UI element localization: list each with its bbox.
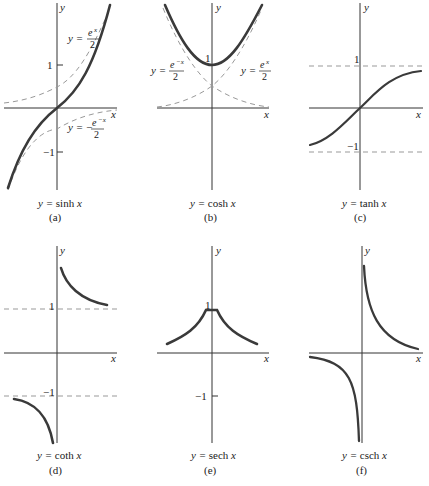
annot-exp-prefix: y =: [240, 64, 256, 76]
annot-exp-neg-num: e: [170, 59, 175, 70]
annot-exp-num: e: [260, 59, 265, 70]
label-f: (f): [356, 464, 367, 477]
annot-exp-sup: x: [265, 58, 270, 66]
panel-f-csch: y x y = csch x (f): [309, 244, 423, 477]
annot-exp-den: 2: [262, 71, 267, 82]
caption-f: y = csch x: [341, 449, 387, 461]
x-axis-label: x: [110, 108, 116, 120]
label-c: (c): [354, 211, 367, 224]
curve-coth-negative: [14, 399, 53, 443]
y-axis-label: y: [59, 244, 65, 256]
curve-csch-negative: [310, 357, 359, 441]
annot-neg-exp-den: 2: [94, 129, 99, 140]
curve-coth-positive: [61, 268, 107, 305]
x-axis-label: x: [263, 108, 269, 120]
annot-exp-neg-prefix: y =: [150, 64, 166, 76]
panel-d-coth: y x 1 −1 y = coth x (d): [4, 244, 117, 477]
label-a: (a): [49, 211, 62, 224]
annot-exp-half-sup: x: [93, 26, 98, 34]
tick-label-1: 1: [47, 59, 53, 71]
label-e: (e): [204, 464, 217, 477]
label-b: (b): [204, 211, 217, 224]
annot-neg-exp-sup: −x: [98, 116, 107, 124]
tick-label-neg1: −1: [347, 140, 359, 152]
tick-label-neg1: −1: [43, 386, 55, 398]
annot-neg-exp-prefix: y = −: [67, 121, 93, 133]
panel-e-sech: y x 1 −1 y = sech x (e): [157, 244, 269, 477]
hyperbolic-functions-figure: y x 1 −1 y = e x 2 y = − e −x 2 y = sinh…: [0, 0, 429, 486]
tick-label-neg1: −1: [43, 146, 55, 158]
tick-label-1: 1: [205, 52, 211, 64]
x-axis-label: x: [415, 352, 421, 364]
x-axis-label: x: [415, 108, 421, 120]
tick-label-1: 1: [49, 300, 55, 312]
curve-cosh: [165, 5, 262, 65]
tick-label-neg1: −1: [195, 390, 207, 402]
panel-c-tanh: y x 1 −1 y = tanh x (c): [309, 1, 423, 224]
caption-b: y = cosh x: [189, 197, 236, 209]
curve-csch-positive: [364, 266, 418, 349]
annot-neg-exp-num: e: [92, 117, 97, 128]
y-axis-label: y: [363, 1, 369, 13]
caption-d: y = coth x: [36, 449, 82, 461]
annot-exp-half-num: e: [88, 27, 93, 38]
annot-exp-half-prefix: y =: [67, 32, 83, 44]
y-axis-label: y: [215, 1, 221, 13]
y-axis-label: y: [59, 1, 65, 13]
y-axis-label: y: [215, 244, 221, 256]
annot-exp-half-den: 2: [90, 39, 95, 50]
caption-a: y = sinh x: [37, 197, 82, 209]
x-axis-label: x: [263, 352, 269, 364]
panel-b-cosh: y x 1 y = e −x 2 y = e x 2 y = cosh x (b…: [150, 1, 271, 224]
x-axis-label: x: [110, 352, 116, 364]
annot-exp-neg-den: 2: [173, 71, 178, 82]
caption-e: y = sech x: [190, 449, 236, 461]
y-axis-label: y: [364, 244, 370, 256]
label-d: (d): [49, 464, 62, 477]
tick-label-1: 1: [354, 53, 360, 65]
panel-a-sinh: y x 1 −1 y = e x 2 y = − e −x 2 y = sinh…: [4, 1, 117, 224]
caption-c: y = tanh x: [341, 197, 387, 209]
annot-exp-neg-sup: −x: [176, 58, 185, 66]
